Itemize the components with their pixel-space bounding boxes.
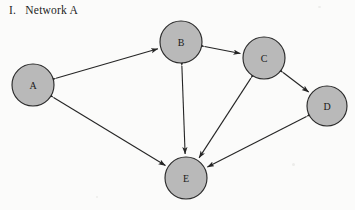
node-label-c: C	[261, 53, 268, 64]
node-e[interactable]: E	[165, 157, 207, 199]
edge-b-c	[205, 47, 241, 54]
node-a[interactable]: A	[12, 64, 54, 106]
node-label-b: B	[178, 37, 185, 48]
edge-b-e	[182, 66, 185, 154]
figure-canvas: I. Network A ABCDE	[0, 0, 355, 210]
edge-a-e	[54, 97, 166, 165]
nodes-layer: ABCDE	[12, 21, 347, 199]
node-c[interactable]: C	[243, 37, 285, 79]
node-d[interactable]: D	[307, 86, 347, 126]
edge-a-b	[56, 49, 158, 79]
edge-d-e	[207, 116, 306, 167]
node-b[interactable]: B	[160, 21, 202, 63]
node-label-a: A	[29, 80, 37, 91]
edge-c-e	[199, 78, 251, 158]
node-label-e: E	[183, 173, 189, 184]
edge-c-d	[283, 73, 309, 93]
network-graph: ABCDE	[0, 0, 355, 210]
node-label-d: D	[323, 101, 330, 112]
